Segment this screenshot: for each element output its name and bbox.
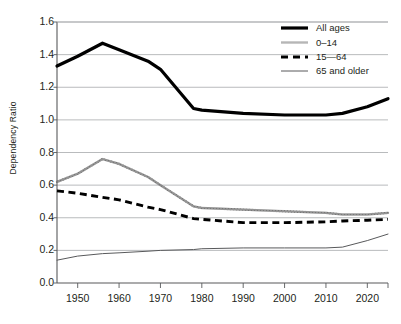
plot-area xyxy=(0,0,401,324)
x-tick-label: 1980 xyxy=(182,292,222,304)
x-tick-label: 1990 xyxy=(223,292,263,304)
legend-label: All ages xyxy=(316,22,350,33)
x-tick-label: 2000 xyxy=(265,292,305,304)
legend-label: 65 and older xyxy=(316,65,369,76)
x-tick-label: 2020 xyxy=(347,292,387,304)
series-line-textured-gray xyxy=(57,159,388,214)
x-tick-label: 1970 xyxy=(140,292,180,304)
x-axis-ticks xyxy=(78,283,388,288)
x-tick-label: 1960 xyxy=(99,292,139,304)
series-line-thin-solid-gray xyxy=(57,234,388,260)
legend-label: 15—64 xyxy=(316,51,347,62)
x-tick-label: 1950 xyxy=(58,292,98,304)
series-line-textured-gray xyxy=(57,159,388,214)
dependency-ratio-chart: Dependency Ratio 1.61.41.21.00.80.60.40.… xyxy=(0,0,401,324)
legend-swatches xyxy=(281,28,308,71)
x-tick-label: 2010 xyxy=(306,292,346,304)
legend-label: 0–14 xyxy=(316,37,337,48)
